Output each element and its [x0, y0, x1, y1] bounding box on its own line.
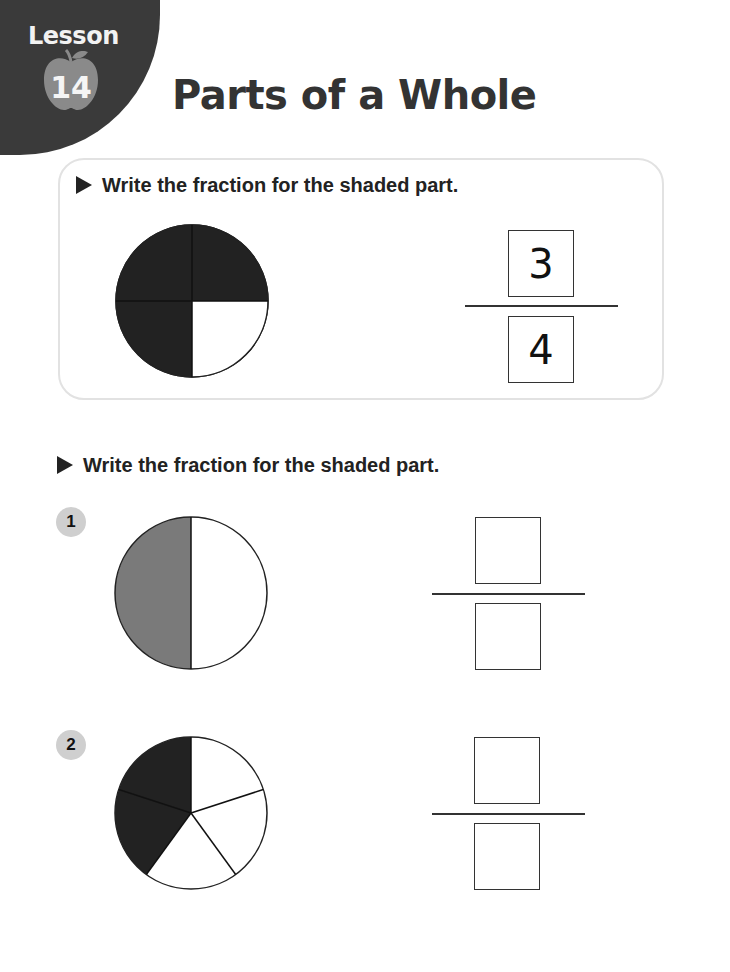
example-denominator-box: 4 — [508, 316, 574, 383]
problem-2-denominator-input[interactable] — [474, 823, 540, 890]
play-triangle-icon — [76, 176, 92, 194]
problem-2-fraction-bar — [432, 813, 585, 815]
problem-number-badge: 1 — [56, 507, 86, 537]
problem-2-pie-fifths — [113, 735, 269, 891]
example-numerator-box: 3 — [508, 230, 574, 297]
problem-1-pie-halves — [113, 515, 269, 671]
section-instruction: Write the fraction for the shaded part. — [57, 454, 439, 477]
problem-1-denominator-input[interactable] — [475, 603, 541, 670]
play-triangle-icon — [57, 456, 73, 474]
example-instruction: Write the fraction for the shaded part. — [76, 174, 458, 197]
example-instruction-text: Write the fraction for the shaded part. — [102, 174, 458, 196]
lesson-number: 14 — [38, 70, 104, 105]
section-instruction-text: Write the fraction for the shaded part. — [83, 454, 439, 476]
problem-2-numerator-input[interactable] — [474, 737, 540, 804]
problem-number-badge: 2 — [56, 730, 86, 760]
page-title: Parts of a Whole — [172, 72, 536, 118]
lesson-label: Lesson — [28, 22, 119, 50]
problem-1-fraction-bar — [432, 593, 585, 595]
example-pie-quarters — [114, 223, 270, 379]
problem-1-numerator-input[interactable] — [475, 517, 541, 584]
example-fraction-bar — [465, 305, 618, 307]
